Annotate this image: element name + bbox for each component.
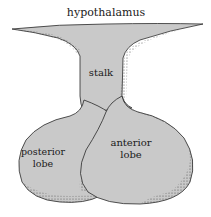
posterior-lobe-label-line2: lobe: [33, 158, 54, 169]
anterior-lobe-label-line1: anterior: [110, 137, 151, 148]
stalk-label: stalk: [89, 67, 114, 78]
anterior-lobe-label-line2: lobe: [120, 149, 142, 160]
hypothalamus-label: hypothalamus: [67, 6, 146, 19]
posterior-lobe-label-line1: posterior: [21, 146, 65, 157]
pituitary-diagram: hypothalamus stalk posterior lobe anteri…: [0, 0, 211, 217]
